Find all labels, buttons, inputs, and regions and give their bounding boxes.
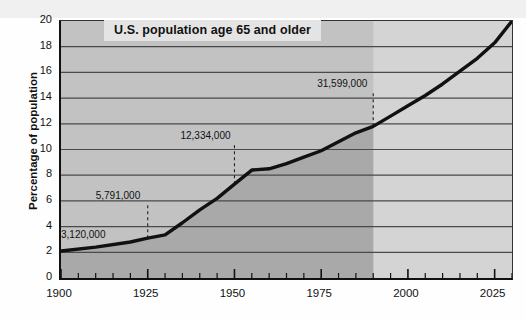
y-axis-tick-label: 4: [26, 220, 52, 231]
x-axis-tick-label: 2000: [376, 288, 436, 300]
y-axis-tick-label: 20: [26, 14, 52, 25]
y-axis-tick-label: 18: [26, 40, 52, 51]
chart-figure: U.S. population age 65 and older Percent…: [0, 0, 526, 320]
x-axis-tick-label: 2025: [463, 288, 523, 300]
y-axis-tick-label: 16: [26, 65, 52, 76]
x-axis-tick-label: 1925: [116, 288, 176, 300]
y-axis-tick-label: 2: [26, 245, 52, 256]
x-axis-tick-label: 1975: [289, 288, 349, 300]
annotation-value-label: 3,120,000: [61, 230, 106, 240]
y-axis-tick-label: 10: [26, 143, 52, 154]
annotation-value-label: 5,791,000: [96, 191, 141, 201]
y-axis-tick-label: 8: [26, 168, 52, 179]
y-axis-tick-label: 0: [26, 271, 52, 282]
annotation-value-label: 31,599,000: [317, 79, 367, 89]
y-axis-tick-label: 12: [26, 117, 52, 128]
y-axis-tick-label: 14: [26, 91, 52, 102]
y-axis-tick-labels: 20181614121086420: [0, 0, 526, 320]
annotation-value-label: 12,334,000: [180, 131, 230, 141]
y-axis-tick-label: 6: [26, 194, 52, 205]
x-axis-tick-label: 1900: [29, 288, 89, 300]
x-axis-tick-label: 1950: [202, 288, 262, 300]
